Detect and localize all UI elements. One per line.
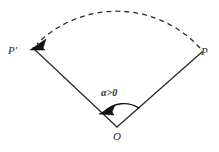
label-angle-alpha: α>0 <box>101 88 117 98</box>
angle-arc-arrowhead <box>99 105 115 115</box>
label-origin-o: O <box>113 131 121 142</box>
rotation-arc-dashed <box>37 11 200 48</box>
ray-o-to-p <box>117 52 202 127</box>
label-p-prime: P′ <box>8 45 17 56</box>
label-p: P <box>201 46 208 57</box>
diagram-canvas <box>0 0 219 152</box>
rotation-arc-arrowhead <box>30 39 46 50</box>
rotation-diagram: P′ P α>0 O <box>0 0 219 152</box>
